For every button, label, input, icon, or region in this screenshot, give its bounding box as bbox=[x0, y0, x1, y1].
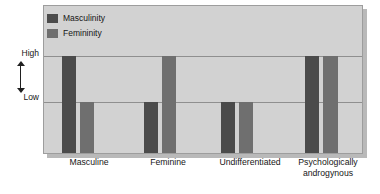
bar-masculine-masculinity bbox=[62, 56, 76, 153]
chart-legend: Masculinity Femininity bbox=[47, 10, 157, 42]
legend-swatch-femininity bbox=[47, 29, 58, 38]
x-axis-label-androgynous-line1: Psychologically bbox=[293, 157, 363, 168]
bar-chart-figure: Masculinity Femininity High Low bbox=[0, 0, 380, 194]
legend-label-femininity: Femininity bbox=[63, 28, 102, 38]
x-axis-label-undifferentiated: Undifferentiated bbox=[199, 157, 301, 168]
bar-masculine-femininity bbox=[80, 102, 94, 153]
y-axis-label-high: High bbox=[22, 48, 39, 58]
x-axis-label-feminine: Feminine bbox=[128, 157, 208, 168]
y-axis: High Low bbox=[0, 48, 42, 112]
plot-area bbox=[44, 56, 362, 153]
arrow-head-down-icon bbox=[17, 88, 25, 93]
x-axis-labels: Masculine Feminine Undifferentiated Psyc… bbox=[43, 157, 363, 191]
x-axis-label-masculine: Masculine bbox=[43, 157, 135, 168]
bar-undifferentiated-masculinity bbox=[221, 102, 235, 153]
up-down-arrow-icon bbox=[16, 61, 25, 93]
legend-item-masculinity: Masculinity bbox=[47, 12, 105, 24]
y-axis-label-low: Low bbox=[23, 92, 39, 102]
bar-feminine-masculinity bbox=[144, 102, 158, 153]
arrow-shaft bbox=[20, 65, 21, 89]
legend-swatch-masculinity bbox=[47, 14, 58, 23]
bar-androgynous-masculinity bbox=[305, 56, 319, 153]
bar-undifferentiated-femininity bbox=[239, 102, 253, 153]
legend-label-masculinity: Masculinity bbox=[63, 13, 105, 23]
bar-androgynous-femininity bbox=[323, 56, 338, 153]
x-axis-label-androgynous-line2: androgynous bbox=[293, 168, 363, 179]
legend-item-femininity: Femininity bbox=[47, 27, 102, 39]
bar-feminine-femininity bbox=[162, 56, 176, 153]
